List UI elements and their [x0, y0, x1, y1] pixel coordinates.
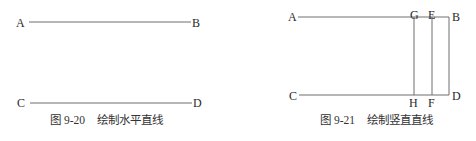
- figure-9-20: A B C D 图 9-20绘制水平直线: [0, 0, 236, 141]
- point-label-b: B: [192, 16, 200, 30]
- point-label-e: E: [428, 8, 435, 22]
- point-label-d: D: [452, 89, 461, 103]
- figure-9-21: A G E B C D H F 图 9-21绘制竖直直线: [236, 0, 476, 141]
- point-label-c: C: [17, 96, 25, 110]
- caption-number: 图 9-20: [50, 114, 85, 126]
- point-label-b: B: [452, 10, 460, 24]
- point-label-d: D: [193, 96, 202, 110]
- figure-caption: 图 9-21绘制竖直直线: [320, 111, 433, 127]
- point-label-h: H: [409, 96, 418, 110]
- point-label-a: A: [16, 16, 25, 30]
- caption-title: 绘制竖直直线: [367, 113, 433, 127]
- figure-caption: 图 9-20绘制水平直线: [50, 111, 163, 127]
- point-label-a: A: [288, 10, 297, 24]
- point-label-c: C: [289, 89, 297, 103]
- point-label-f: F: [428, 96, 435, 110]
- caption-number: 图 9-21: [320, 114, 355, 126]
- caption-title: 绘制水平直线: [97, 113, 163, 127]
- point-label-g: G: [410, 8, 419, 22]
